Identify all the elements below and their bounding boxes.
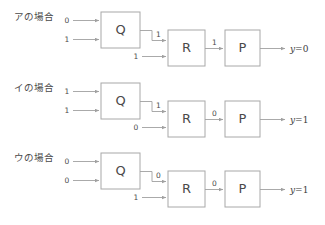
wire-q-to-r-2: [140, 102, 166, 112]
output-label-1: y=0: [289, 44, 309, 54]
gate-label-p-3: P: [239, 181, 247, 196]
wire-q-to-r-3: [140, 172, 166, 182]
gate-label-r-1: R: [182, 40, 191, 55]
wire-q-to-r-1: [140, 31, 166, 41]
output-value-1: =0: [295, 44, 309, 54]
gate-label-q-1: Q: [115, 22, 125, 37]
r-input-bottom-label-2: 0: [134, 123, 139, 132]
q-output-label-1: 1: [156, 30, 161, 39]
output-value-3: =1: [295, 185, 308, 195]
q-output-label-2: 1: [156, 101, 161, 110]
output-value-2: =1: [295, 115, 308, 125]
gate-label-q-2: Q: [115, 93, 125, 108]
case-label-1: アの場合: [14, 11, 54, 22]
case-row-1: アの場合 0 1 Q 1 1 R 1 P: [14, 11, 309, 66]
q-output-label-3: 0: [156, 171, 161, 180]
r-output-label-1: 1: [212, 38, 217, 47]
q-input-bottom-label-1: 1: [65, 35, 70, 44]
r-input-bottom-label-3: 1: [134, 193, 139, 202]
case-label-2: イの場合: [14, 82, 54, 93]
case-row-3: ウの場合 0 0 Q 0 1 R 0 P y=1: [14, 152, 308, 207]
case-label-3: ウの場合: [14, 152, 54, 163]
logic-circuit-diagram: アの場合 0 1 Q 1 1 R 1 P: [0, 0, 325, 225]
q-input-top-label-2: 1: [65, 87, 70, 96]
gate-label-q-3: Q: [115, 163, 125, 178]
q-input-top-label-3: 0: [65, 157, 70, 166]
diagram-canvas: アの場合 0 1 Q 1 1 R 1 P: [0, 0, 325, 225]
r-output-label-2: 0: [212, 109, 217, 118]
output-label-3: y=1: [289, 185, 308, 195]
gate-label-r-2: R: [182, 111, 191, 126]
case-row-2: イの場合 1 1 Q 1 0 R 0 P y=1: [14, 82, 308, 137]
gate-label-p-1: P: [239, 40, 247, 55]
r-output-label-3: 0: [212, 179, 217, 188]
q-input-bottom-label-3: 0: [65, 176, 70, 185]
gate-label-r-3: R: [182, 181, 191, 196]
output-label-2: y=1: [289, 115, 308, 125]
gate-label-p-2: P: [239, 111, 247, 126]
q-input-top-label-1: 0: [65, 16, 70, 25]
q-input-bottom-label-2: 1: [65, 106, 70, 115]
r-input-bottom-label-1: 1: [134, 52, 139, 61]
